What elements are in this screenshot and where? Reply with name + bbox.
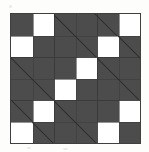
quilt-cell-r5-c6 xyxy=(119,100,141,122)
diagonal-seam xyxy=(75,14,118,36)
middle-left-triangle-extension xyxy=(11,78,33,121)
quilt-cell-r2-c5 xyxy=(97,36,119,58)
quilt-cell-r6-c6 xyxy=(119,122,141,144)
paper-speck xyxy=(9,5,12,8)
bottom-center-triangle-extension xyxy=(32,121,75,143)
middle-right-triangle-extension xyxy=(118,35,140,78)
quilt-cell-r3-c3 xyxy=(54,57,76,79)
quilt-cell-r2-c1 xyxy=(11,36,33,58)
quilt-cell-r5-c5 xyxy=(97,100,119,122)
top-center-triangle-extension xyxy=(75,14,118,36)
quilt-cell-r4-c4 xyxy=(76,79,98,101)
diagonal-seam xyxy=(11,78,33,121)
quilt-block xyxy=(11,14,140,143)
quilt-cell-r2-c2 xyxy=(33,36,55,58)
quilt-cell-r4-c3 xyxy=(54,79,76,101)
diagonal-seam xyxy=(32,121,75,143)
paper-speck xyxy=(27,147,31,149)
quilt-cell-r6-c1 xyxy=(11,122,33,144)
paper-speck xyxy=(63,148,68,150)
quilt-cell-r3-c4 xyxy=(76,57,98,79)
image-canvas xyxy=(0,0,149,152)
quilt-cell-r1-c6 xyxy=(119,14,141,36)
diagonal-seam xyxy=(118,35,140,78)
quilt-cell-r1-c2 xyxy=(33,14,55,36)
quilt-cell-r5-c2 xyxy=(33,100,55,122)
quilt-cell-r6-c5 xyxy=(97,122,119,144)
quilt-cell-r1-c1 xyxy=(11,14,33,36)
